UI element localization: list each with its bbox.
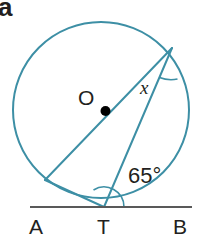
chord-T-to-Q (45, 180, 104, 207)
point-label-a: A (29, 216, 43, 237)
diagram-canvas (0, 0, 203, 247)
point-label-t: T (97, 216, 110, 237)
center-point-dot-icon (101, 106, 111, 116)
unknown-angle-label-x: x (140, 78, 148, 97)
geometry-figure: a A T B O x 65° (0, 0, 203, 247)
center-label-o: O (78, 87, 94, 108)
part-label: a (0, 0, 12, 20)
point-label-b: B (173, 216, 187, 237)
known-angle-label-65: 65° (128, 165, 161, 187)
angle-arc-x-icon (160, 78, 178, 80)
